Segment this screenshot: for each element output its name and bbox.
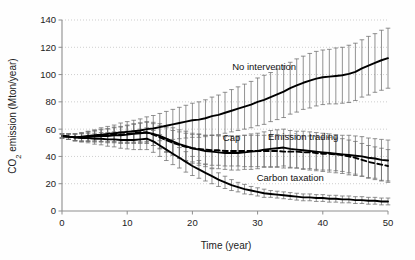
svg-text:120: 120 [40, 42, 56, 53]
svg-text:100: 100 [40, 69, 56, 80]
svg-text:140: 140 [40, 14, 56, 25]
co2-emission-line-chart: 02040608010012014001020304050 No interve… [0, 0, 415, 260]
svg-text:40: 40 [45, 151, 56, 162]
chart-figure: 02040608010012014001020304050 No interve… [0, 0, 415, 260]
svg-text:20: 20 [45, 178, 56, 189]
x-axis-title: Time (year) [201, 240, 252, 251]
series-label-emission-trading: Emission trading [268, 131, 338, 142]
svg-text:80: 80 [45, 96, 56, 107]
svg-text:40: 40 [318, 217, 329, 228]
svg-text:20: 20 [187, 217, 198, 228]
svg-text:0: 0 [59, 217, 64, 228]
series-label-no-intervention: No intervention [232, 61, 296, 72]
svg-text:60: 60 [45, 124, 56, 135]
svg-text:10: 10 [122, 217, 133, 228]
series-label-cap: Cap [223, 132, 240, 143]
svg-text:50: 50 [383, 217, 394, 228]
series-label-carbon-taxation: Carbon taxation [257, 172, 324, 183]
svg-text:0: 0 [51, 205, 56, 216]
svg-text:30: 30 [252, 217, 263, 228]
